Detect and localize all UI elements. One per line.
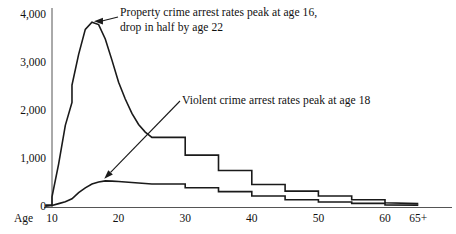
- x-tick-label-20: 20: [99, 213, 139, 225]
- annotation-property-crime: Property crime arrest rates peak at age …: [120, 6, 317, 35]
- x-tick-label-50: 50: [298, 213, 338, 225]
- data-series-group: [45, 22, 418, 206]
- x-tick-label-40: 40: [232, 213, 272, 225]
- x-tick-label-65plus: 65+: [398, 213, 438, 225]
- y-tick-label-2000: 2,000: [0, 105, 46, 117]
- x-tick-label-10: 10: [32, 213, 72, 225]
- y-tick-label-3000: 3,000: [0, 57, 46, 69]
- property-leader-line: [101, 17, 118, 21]
- annotation-leader-lines: [94, 17, 180, 179]
- annotation-violent-crime: Violent crime arrest rates peak at age 1…: [182, 94, 370, 109]
- x-tick-label-30: 30: [165, 213, 205, 225]
- crime-arrest-rate-chart: Property crime arrest rates peak at age …: [0, 0, 456, 234]
- y-tick-label-0: 0: [0, 201, 46, 213]
- chart-plot-area: [0, 0, 456, 234]
- y-tick-label-4000: 4,000: [0, 9, 46, 21]
- violent-crime-line: [45, 181, 418, 206]
- y-tick-label-1000: 1,000: [0, 153, 46, 165]
- x-axis-label: Age: [14, 213, 33, 225]
- property-crime-line: [45, 22, 418, 205]
